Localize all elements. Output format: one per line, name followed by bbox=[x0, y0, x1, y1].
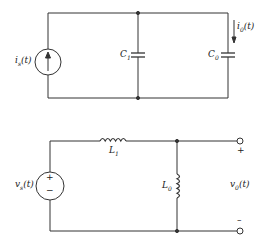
source-voltage-label: vs(t) bbox=[15, 180, 34, 191]
output-current-label: i0(t) bbox=[237, 22, 254, 33]
output-voltage-label: v0(t) bbox=[230, 180, 250, 191]
circuit-drawing bbox=[0, 0, 270, 249]
output-terminal-plus bbox=[237, 138, 243, 144]
source-current-label: is(t) bbox=[15, 56, 32, 67]
capacitor-c1-label: C1 bbox=[120, 50, 131, 61]
junction-dot bbox=[136, 11, 139, 14]
junction-dot bbox=[175, 139, 178, 142]
inductor-l1-icon bbox=[100, 139, 126, 142]
output-terminal-minus bbox=[237, 228, 243, 234]
bottom-circuit-wires bbox=[50, 141, 237, 231]
source-plus-sign: + bbox=[46, 173, 54, 182]
output-plus-sign: + bbox=[237, 146, 245, 155]
junction-dot bbox=[136, 96, 139, 99]
top-circuit-wires bbox=[48, 13, 228, 98]
junction-dot bbox=[175, 229, 178, 232]
circuit-diagram: is(t) C1 C0 i0(t) vs(t) + − L1 L0 + – v0… bbox=[0, 0, 270, 249]
inductor-l0-label: L0 bbox=[162, 181, 172, 192]
current-arrow-icon bbox=[232, 20, 236, 43]
capacitor-c0-icon bbox=[221, 53, 235, 57]
inductor-l1-label: L1 bbox=[109, 146, 119, 157]
capacitor-c0-label: C0 bbox=[208, 50, 219, 61]
inductor-l0-icon bbox=[177, 174, 180, 198]
capacitor-c1-icon bbox=[131, 53, 145, 57]
source-minus-sign: − bbox=[46, 186, 54, 195]
output-minus-sign: – bbox=[237, 216, 242, 225]
current-source-icon bbox=[35, 49, 61, 75]
